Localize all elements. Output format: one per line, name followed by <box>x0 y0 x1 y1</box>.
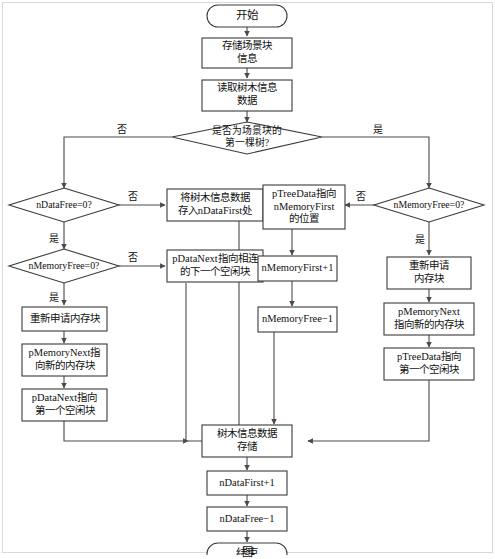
node-realloc-mem-left[interactable]: 重新申请内存块 <box>22 307 107 331</box>
store-scene-label-line2: 信息 <box>237 52 257 64</box>
node-save-ndatafirst[interactable]: 将树木信息数据 存入nDataFirst处 <box>167 189 263 221</box>
edge-label-nmemfree-l-no: 否 <box>128 252 138 263</box>
ptreedata-pos-label-line1: pTreeData指向 <box>272 187 336 199</box>
edge-label-ndatafree-yes: 是 <box>49 233 59 244</box>
node-nmemfirst-plus[interactable]: nMemoryFirst+1 <box>258 256 337 281</box>
node-pdatanext-first[interactable]: pDataNext指向 第一个空闲块 <box>22 389 107 421</box>
pdatanext-next-label-line1: pDataNext指向相连 <box>172 252 258 264</box>
nmemfree-zero-left-label: nMemoryFree=0? <box>29 260 100 271</box>
node-realloc-mem-right[interactable]: 重新申请 内存块 <box>387 257 471 289</box>
realloc-mem-right-label-line2: 内存块 <box>414 272 445 284</box>
is-first-tree-label-line1: 是否为场景块的 <box>212 124 282 136</box>
edge-pdatanext-first-to-tree-store <box>64 420 188 441</box>
edge-label-nmemfree-r-no: 否 <box>356 191 366 202</box>
store-scene-label-line1: 存储场景块 <box>222 39 273 51</box>
ptreedata-first-label-line1: pTreeData指向 <box>397 350 461 362</box>
ptreedata-pos-label-line3: 的位置 <box>289 212 319 224</box>
ptreedata-first-label-line2: 第一个空闲块 <box>399 363 460 375</box>
realloc-mem-right-label-line1: 重新申请 <box>409 259 450 271</box>
pdatanext-first-label-line2: 第一个空闲块 <box>35 404 96 416</box>
edge-label-nmemfree-l-yes: 是 <box>49 292 59 303</box>
ndatafree-minus-label: nDataFree−1 <box>220 513 275 524</box>
node-pmemnext-new-right[interactable]: pMemoryNext 指向新的内存块 <box>384 303 474 335</box>
edge-first-tree-no <box>64 137 172 188</box>
edge-ptreedata-first-to-tree-store <box>308 379 429 441</box>
ndatafree-zero-label: nDataFree=0? <box>36 199 92 210</box>
nmemfree-zero-right-label: nMemoryFree=0? <box>394 199 465 210</box>
nmemfree-minus-label: nMemoryFree−1 <box>262 313 333 324</box>
pmemnext-new-left-label-line2: 向新的内存块 <box>35 359 96 371</box>
node-ndatafree-minus[interactable]: nDataFree−1 <box>207 507 287 531</box>
start-label: 开始 <box>236 8 259 21</box>
edge-label-first-tree-yes: 是 <box>373 124 383 135</box>
is-first-tree-label-line2: 第一棵树? <box>225 136 269 148</box>
node-pmemnext-new-left[interactable]: pMemoryNext指 向新的内存块 <box>22 344 107 376</box>
node-nmemfree-minus[interactable]: nMemoryFree−1 <box>258 307 337 332</box>
edge-label-first-tree-no: 否 <box>117 124 127 135</box>
pmemnext-new-left-label-line1: pMemoryNext指 <box>29 346 102 358</box>
node-ndatafree-zero[interactable]: nDataFree=0? <box>9 188 119 222</box>
pmemnext-new-right-label-line1: pMemoryNext <box>398 306 460 317</box>
pmemnext-new-right-label-line2: 指向新的内存块 <box>394 318 465 330</box>
node-ndatafirst-plus[interactable]: nDataFirst+1 <box>207 471 287 495</box>
realloc-mem-left-label: 重新申请内存块 <box>30 312 101 324</box>
pdatanext-next-label-line2: 的下一个空闲块 <box>180 265 251 277</box>
node-nmemfree-zero-right[interactable]: nMemoryFree=0? <box>374 188 484 222</box>
node-ptreedata-pos[interactable]: pTreeData指向 nMemoryFirst 的位置 <box>263 185 345 229</box>
node-tree-store[interactable]: 树木信息数据 存储 <box>202 425 292 457</box>
node-start[interactable]: 开始 <box>207 5 287 27</box>
node-ptreedata-first[interactable]: pTreeData指向 第一个空闲块 <box>384 348 474 380</box>
edge-first-tree-yes <box>322 137 429 188</box>
node-pdatanext-next[interactable]: pDataNext指向相连 的下一个空闲块 <box>167 250 263 282</box>
tree-store-label-line1: 树木信息数据 <box>217 427 278 439</box>
edge-label-ndatafree-no: 否 <box>128 191 138 202</box>
figure-caption: 图 <box>0 543 495 559</box>
pdatanext-first-label-line1: pDataNext指向 <box>32 391 97 403</box>
ptreedata-pos-label-line2: nMemoryFirst <box>274 201 335 212</box>
node-read-tree[interactable]: 读取树木信息 数据 <box>202 80 292 111</box>
node-store-scene[interactable]: 存储场景块 信息 <box>202 38 292 68</box>
save-ndatafirst-label-line1: 将树木信息数据 <box>180 191 251 203</box>
edge-label-nmemfree-r-yes: 是 <box>415 234 425 245</box>
tree-store-label-line2: 存储 <box>237 440 258 452</box>
node-nmemfree-zero-left[interactable]: nMemoryFree=0? <box>9 249 119 283</box>
read-tree-label-line2: 数据 <box>237 94 258 106</box>
read-tree-label-line1: 读取树木信息 <box>217 81 277 93</box>
nmemfirst-plus-label: nMemoryFirst+1 <box>262 262 334 273</box>
node-is-first-tree[interactable]: 是否为场景块的 第一棵树? <box>172 122 322 154</box>
ndatafirst-plus-label: nDataFirst+1 <box>219 477 275 488</box>
save-ndatafirst-label-line2: 存入nDataFirst处 <box>178 204 253 216</box>
